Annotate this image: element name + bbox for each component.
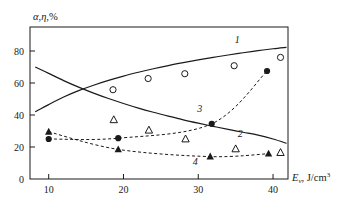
curve-3: [49, 71, 267, 140]
curve-label-2: 2: [238, 128, 243, 139]
marker-filled-circle: [115, 135, 121, 141]
plot-frame: [30, 27, 288, 179]
marker-open-triangle: [110, 116, 117, 123]
curve-label-4: 4: [193, 156, 198, 167]
data-point-4-1: [115, 145, 122, 152]
data-point-3-1: [115, 135, 121, 141]
y-tick-label-60: 60: [14, 78, 24, 89]
curve-label-1: 1: [235, 34, 240, 45]
data-point-open-triangles-0: [110, 116, 117, 123]
y-tick-label-20: 20: [14, 142, 24, 153]
marker-open-triangle: [232, 145, 239, 152]
data-point-4-0: [45, 128, 52, 135]
marker-filled-triangle: [115, 145, 122, 152]
x-tick-label-20: 20: [118, 184, 128, 195]
x-tick-label-30: 30: [193, 184, 203, 195]
marker-filled-triangle: [45, 128, 52, 135]
marker-open-circle: [277, 54, 283, 60]
marker-filled-circle: [46, 136, 52, 142]
data-point-4-3: [265, 150, 272, 157]
data-point-open-circles-3: [231, 63, 237, 69]
data-point-open-triangles-1: [145, 126, 152, 133]
x-axis-label: Ev, J/cm3: [291, 171, 331, 185]
marker-open-triangle: [182, 135, 189, 142]
curve-1: [35, 47, 286, 111]
marker-open-circle: [145, 75, 151, 81]
marker-filled-triangle: [207, 153, 214, 160]
data-point-open-triangles-2: [182, 135, 189, 142]
data-point-open-circles-4: [277, 54, 283, 60]
marker-open-triangle: [145, 126, 152, 133]
y-axis-label: α,η,%: [33, 11, 58, 22]
data-point-open-triangles-3: [232, 145, 239, 152]
data-point-3-2: [209, 121, 215, 127]
data-point-open-circles-2: [182, 71, 188, 77]
figure-container: 10203040020406080α,η,%Ev, J/cm31234: [0, 0, 345, 209]
data-point-open-circles-0: [110, 87, 116, 93]
chart-canvas: 10203040020406080α,η,%Ev, J/cm31234: [0, 0, 345, 209]
data-point-open-triangles-4: [277, 149, 284, 156]
x-tick-label-40: 40: [268, 184, 278, 195]
y-tick-label-80: 80: [14, 46, 24, 57]
data-point-open-circles-1: [145, 75, 151, 81]
x-tick-label-10: 10: [44, 184, 54, 195]
marker-filled-circle: [264, 68, 270, 74]
marker-filled-triangle: [265, 150, 272, 157]
y-tick-label-40: 40: [14, 110, 24, 121]
marker-open-triangle: [277, 149, 284, 156]
marker-open-circle: [231, 63, 237, 69]
data-point-3-3: [264, 68, 270, 74]
y-tick-label-0: 0: [19, 174, 24, 185]
marker-open-circle: [182, 71, 188, 77]
curve-label-3: 3: [196, 103, 202, 114]
curve-2: [35, 67, 286, 143]
data-point-3-0: [46, 136, 52, 142]
data-point-4-2: [207, 153, 214, 160]
marker-filled-circle: [209, 121, 215, 127]
marker-open-circle: [110, 87, 116, 93]
